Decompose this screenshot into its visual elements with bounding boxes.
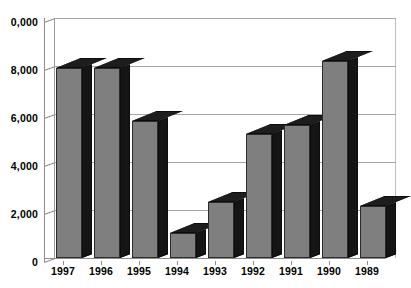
bar-front-face [284, 125, 310, 258]
x-axis-tick-label: 1991 [272, 265, 310, 277]
bar-side-face [234, 198, 244, 258]
bar-front-face [208, 202, 234, 258]
y-axis-tick-label: 8,000 [0, 65, 38, 75]
y-axis-tick-label: 2,000 [0, 209, 38, 219]
plot-area [44, 14, 396, 262]
bar-front-face [246, 134, 272, 258]
bar-side-face [272, 131, 282, 258]
x-axis-tick-label: 1990 [310, 265, 348, 277]
bar-front-face [132, 121, 158, 258]
bar-side-face [310, 121, 320, 258]
bar-1997 [56, 68, 82, 258]
bar-front-face [360, 206, 386, 258]
x-axis-tick-label: 1995 [120, 265, 158, 277]
x-axis-tick-mark [101, 261, 102, 265]
bar-1992 [246, 134, 272, 258]
x-axis-tick-mark [139, 261, 140, 265]
bar-top-face [132, 111, 183, 121]
x-axis-tick-label: 1994 [158, 265, 196, 277]
x-axis-tick-mark [253, 261, 254, 265]
x-axis-tick-label: 1996 [82, 265, 120, 277]
bar-top-face [322, 51, 373, 61]
x-axis-tick-mark [63, 261, 64, 265]
bar-side-face [386, 203, 396, 258]
bar-front-face [170, 233, 196, 258]
bar-1990 [322, 61, 348, 258]
x-axis-tick-mark [215, 261, 216, 265]
x-axis-tick-label: 1992 [234, 265, 272, 277]
bar-front-face [94, 68, 120, 258]
y-axis-tick-label: 6,000 [0, 113, 38, 123]
x-axis-tick-label: 1989 [348, 265, 386, 277]
x-axis-tick-mark [291, 261, 292, 265]
bar-top-face [360, 196, 411, 206]
bar-1995 [132, 121, 158, 258]
bar-side-face [196, 229, 206, 258]
bar-1994 [170, 233, 196, 258]
bar-side-face [348, 57, 358, 258]
bar-1989 [360, 206, 386, 258]
x-axis-tick-label: 1997 [44, 265, 82, 277]
bar-side-face [158, 117, 168, 258]
bar-1996 [94, 68, 120, 258]
x-axis-tick-mark [367, 261, 368, 265]
y-axis-tick-label: 0,000 [0, 17, 38, 27]
bar-side-face [120, 65, 130, 258]
bar-1991 [284, 125, 310, 258]
x-axis-tick-mark [329, 261, 330, 265]
y-axis-tick-label: 4,000 [0, 161, 38, 171]
bar-front-face [56, 68, 82, 258]
x-axis-tick-mark [177, 261, 178, 265]
bar-1993 [208, 202, 234, 258]
x-axis-tick-label: 1993 [196, 265, 234, 277]
bars-layer [44, 14, 396, 262]
bar-side-face [82, 65, 92, 258]
y-axis-labels: 02,0004,0006,0008,0000,000 [0, 0, 38, 288]
y-axis-tick-label: 0 [0, 257, 38, 267]
bar-front-face [322, 61, 348, 258]
x-axis-labels: 199719961995199419931992199119901989 [44, 265, 396, 285]
